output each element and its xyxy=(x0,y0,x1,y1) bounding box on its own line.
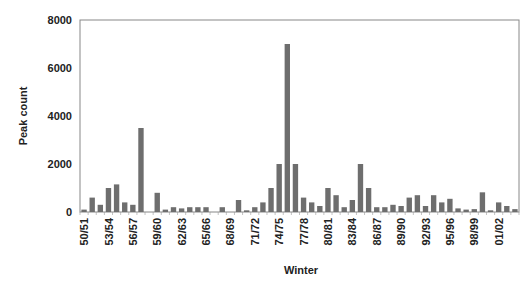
bar-chart: 02000400060008000 50/5153/5456/5759/6062… xyxy=(0,0,527,290)
bar xyxy=(407,198,412,212)
x-tick-label: 89/90 xyxy=(395,218,407,246)
x-tick-label: 53/54 xyxy=(103,217,115,245)
bar xyxy=(415,195,420,212)
x-tick-label: 95/96 xyxy=(444,218,456,246)
x-tick-label: 50/51 xyxy=(78,218,90,246)
bar xyxy=(439,202,444,212)
x-tick-label: 62/63 xyxy=(176,218,188,246)
y-axis: 02000400060008000 xyxy=(48,14,72,218)
x-tick-label: 77/78 xyxy=(298,218,310,246)
y-tick-label: 0 xyxy=(66,206,72,218)
bar xyxy=(244,210,249,212)
x-tick-label: 56/57 xyxy=(127,218,139,246)
x-tick-label: 65/66 xyxy=(200,218,212,246)
x-tick-label: 71/72 xyxy=(249,218,261,246)
bar xyxy=(114,184,119,212)
bar xyxy=(317,206,322,212)
bar xyxy=(350,200,355,212)
x-tick-label: 98/99 xyxy=(468,218,480,246)
x-tick-label: 83/84 xyxy=(346,217,358,245)
y-tick-label: 4000 xyxy=(48,110,72,122)
x-tick-label: 80/81 xyxy=(322,218,334,246)
bar xyxy=(496,202,501,212)
bar xyxy=(130,205,135,212)
bar xyxy=(390,205,395,212)
bar xyxy=(423,206,428,212)
bar xyxy=(260,202,265,212)
bar xyxy=(276,164,281,212)
bar xyxy=(122,202,127,212)
bar xyxy=(374,207,379,212)
bar xyxy=(463,210,468,212)
y-axis-label: Peak count xyxy=(17,86,29,145)
x-axis: 50/5153/5456/5759/6062/6365/6668/6971/72… xyxy=(78,212,519,246)
bar xyxy=(268,188,273,212)
bar xyxy=(179,208,184,212)
x-tick-label: 86/87 xyxy=(371,218,383,246)
bar xyxy=(187,207,192,212)
x-axis-label: Winter xyxy=(284,264,319,276)
bar xyxy=(106,188,111,212)
bar xyxy=(358,164,363,212)
bar xyxy=(90,198,95,212)
bar xyxy=(325,188,330,212)
bar xyxy=(342,207,347,212)
bar xyxy=(366,188,371,212)
x-tick-label: 92/93 xyxy=(420,218,432,246)
x-tick-label: 68/69 xyxy=(224,218,236,246)
bar xyxy=(163,210,168,212)
bar xyxy=(447,199,452,212)
bar xyxy=(309,202,314,212)
bar xyxy=(455,208,460,212)
bar xyxy=(155,193,160,212)
bar xyxy=(488,210,493,212)
plot-area xyxy=(80,20,519,212)
bar xyxy=(512,209,517,212)
bar xyxy=(333,195,338,212)
bar xyxy=(236,200,241,212)
y-tick-label: 8000 xyxy=(48,14,72,26)
bar xyxy=(382,207,387,212)
x-tick-label: 74/75 xyxy=(273,218,285,246)
bar xyxy=(171,207,176,212)
bar xyxy=(480,192,485,212)
bar xyxy=(195,207,200,212)
bar xyxy=(98,205,103,212)
x-tick-label: 01/02 xyxy=(493,218,505,246)
bar xyxy=(285,44,290,212)
bar xyxy=(138,128,143,212)
bar xyxy=(431,195,436,212)
bar xyxy=(293,164,298,212)
bar xyxy=(398,206,403,212)
bar xyxy=(252,207,257,212)
bar xyxy=(81,210,86,212)
bar xyxy=(504,206,509,212)
bar xyxy=(472,209,477,212)
bar xyxy=(203,207,208,212)
x-tick-label: 59/60 xyxy=(151,218,163,246)
bar xyxy=(220,207,225,212)
bar xyxy=(301,198,306,212)
plot-frame xyxy=(80,20,519,212)
y-tick-label: 6000 xyxy=(48,62,72,74)
y-tick-label: 2000 xyxy=(48,158,72,170)
